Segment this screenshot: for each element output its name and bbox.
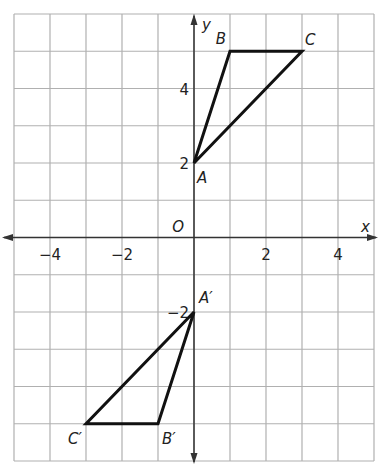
vertex-label: A′ bbox=[198, 289, 213, 307]
y-tick-label: 4 bbox=[179, 81, 189, 99]
x-axis-label: x bbox=[360, 218, 370, 236]
x-tick-label: −4 bbox=[39, 246, 61, 264]
y-tick-label: 2 bbox=[179, 155, 189, 173]
y-axis-up-arrow-icon bbox=[191, 14, 198, 25]
axes bbox=[2, 14, 378, 464]
triangle-a-prime-b-prime-c-prime bbox=[86, 312, 194, 424]
coordinate-plane: −4−22442−2Oxy ABCA′B′C′ bbox=[0, 0, 380, 466]
x-axis-left-arrow-icon bbox=[2, 234, 13, 241]
vertex-label: C bbox=[305, 31, 316, 49]
vertex-label: B′ bbox=[162, 430, 176, 448]
y-axis-down-arrow-icon bbox=[191, 453, 198, 464]
vertex-labels: ABCA′B′C′ bbox=[68, 30, 316, 448]
vertex-label: A bbox=[196, 169, 207, 187]
vertex-label: B bbox=[216, 30, 226, 48]
vertex-label: C′ bbox=[68, 430, 82, 448]
origin-label: O bbox=[172, 218, 184, 236]
y-axis-label: y bbox=[201, 16, 212, 34]
x-tick-label: 2 bbox=[261, 246, 271, 264]
x-tick-label: 4 bbox=[333, 246, 343, 264]
triangle-abc bbox=[194, 51, 302, 163]
x-tick-label: −2 bbox=[111, 246, 133, 264]
